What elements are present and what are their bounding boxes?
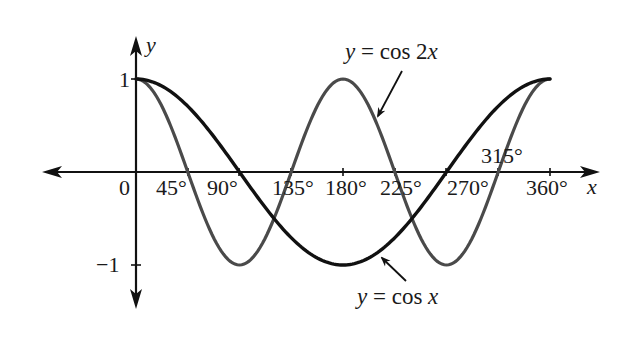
annotation-cos2x-y: y (343, 39, 356, 64)
x-tick-label-270: 270° (447, 175, 489, 200)
svg-text:y = cos 2x: y = cos 2x (343, 39, 439, 64)
x-tick-label-135: 135° (272, 175, 314, 200)
x-tick-label-315: 315° (481, 143, 523, 168)
annotation-cosx-arrow-icon (382, 258, 406, 281)
annotation-cos-x: y = cos x (355, 258, 439, 309)
x-tick-label-45: 45° (156, 175, 187, 200)
x-tick-label-180: 180° (325, 175, 367, 200)
annotation-cos2x-x: x (427, 39, 439, 64)
annotation-cos-2x: y = cos 2x (343, 39, 439, 116)
annotation-cosx-y: y (355, 284, 368, 309)
annotation-cos2x-eq: = cos 2 (355, 39, 427, 64)
x-tick-label-90: 90° (207, 175, 238, 200)
x-axis-label: x (586, 174, 597, 199)
x-tick-label-0: 0 (119, 175, 130, 200)
trig-chart: y x 1 −1 0 45° 90° 135° 180° 225° 270° 3… (0, 0, 628, 339)
x-tick-label-225: 225° (380, 175, 422, 200)
annotation-cos2x-arrow-icon (378, 71, 402, 116)
annotation-cosx-eq: = cos (367, 284, 428, 309)
y-axis-label: y (144, 32, 156, 57)
y-tick-label-neg1: −1 (96, 252, 119, 277)
x-tick-label-360: 360° (526, 175, 568, 200)
annotation-cosx-x: x (427, 284, 439, 309)
svg-text:y = cos x: y = cos x (355, 284, 439, 309)
y-tick-label-1: 1 (119, 67, 130, 92)
